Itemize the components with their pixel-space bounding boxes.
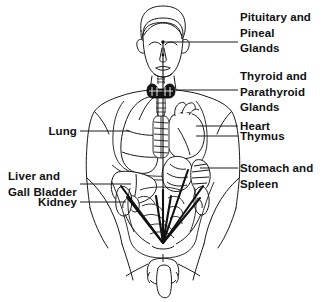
lung-group xyxy=(121,96,158,173)
label-thymus: Thymus xyxy=(240,129,285,145)
pelvic-base xyxy=(152,246,174,249)
label-line: Liver and xyxy=(8,169,78,185)
anatomy-diagram: Pituitary and Pineal Glands Thyroid and … xyxy=(0,0,323,302)
label-lung: Lung xyxy=(49,124,78,140)
pituitary-point xyxy=(162,54,165,57)
pineal-point xyxy=(161,40,165,44)
label-line: Spleen xyxy=(240,177,313,193)
heart-organ xyxy=(167,112,205,158)
label-line: Stomach and xyxy=(240,161,313,177)
label-pituitary-and-pineal-glands: Pituitary and Pineal Glands xyxy=(240,10,311,57)
label-line: Thyroid and xyxy=(240,69,307,85)
label-line: Kidney xyxy=(38,195,77,211)
gonads-group xyxy=(126,246,200,298)
label-stomach-and-spleen: Stomach and Spleen xyxy=(240,161,313,192)
thymus-group xyxy=(153,116,169,158)
intestine-loop-4 xyxy=(142,204,163,212)
label-line: Thymus xyxy=(240,129,285,145)
armpit-right xyxy=(217,112,231,134)
hip-right xyxy=(204,178,239,244)
torso-lower-right xyxy=(218,208,236,248)
label-line: Pineal xyxy=(240,26,311,42)
label-kidney: Kidney xyxy=(38,195,77,211)
label-line: Glands xyxy=(240,41,311,57)
penis-shaft xyxy=(157,265,172,298)
eye-left xyxy=(149,42,161,45)
heart-group xyxy=(167,102,205,158)
label-line: Glands xyxy=(240,100,307,116)
torso-lower-left xyxy=(90,208,108,248)
label-line: Lung xyxy=(49,124,78,140)
label-line: Pituitary and xyxy=(240,10,311,26)
label-line: Parathyroid xyxy=(240,85,307,101)
label-thyroid-and-parathyroid-glands: Thyroid and Parathyroid Glands xyxy=(240,69,307,116)
